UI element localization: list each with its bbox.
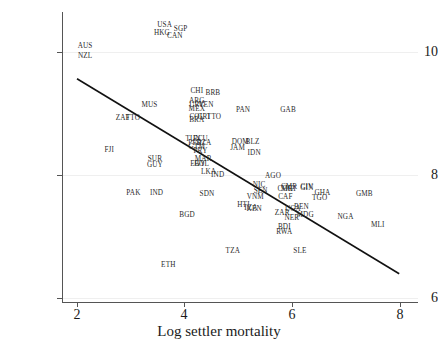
data-point-label: JAM <box>230 145 245 152</box>
y-tick-10 <box>57 52 62 53</box>
data-point-label: BRA <box>189 117 204 124</box>
data-point-label: MUS <box>141 102 157 109</box>
y-axis-line <box>62 12 63 303</box>
x-axis-title: Log settler mortality <box>0 323 438 340</box>
gridline-y10 <box>62 52 418 53</box>
data-point-label: RWA <box>276 229 292 236</box>
data-point-label: IND <box>211 172 224 179</box>
data-point-label: NZL <box>78 53 92 60</box>
data-point-label: GAB <box>280 108 296 115</box>
x-tick-label-2: 2 <box>62 308 92 322</box>
data-point-label: PAN <box>236 108 250 115</box>
x-tick-label-6: 6 <box>277 308 307 322</box>
y-tick-label-10: 10 <box>404 45 438 59</box>
data-point-label: BLZ <box>246 139 260 146</box>
data-point-label: NGA <box>337 214 353 221</box>
gridline-y8 <box>62 175 418 176</box>
data-point-label: AGO <box>265 173 281 180</box>
data-point-label: IDN <box>248 150 261 157</box>
data-point-label: GUY <box>147 162 163 169</box>
data-point-label: TGO <box>312 195 327 202</box>
data-point-label: BRB <box>205 91 220 98</box>
data-point-label: BOL <box>194 161 209 168</box>
y-tick-6 <box>57 298 62 299</box>
x-axis-line <box>62 302 418 303</box>
data-point-label: PAK <box>126 190 140 197</box>
data-point-label: AUS <box>78 43 93 50</box>
data-point-label: VNM <box>247 194 264 201</box>
data-point-label: SLE <box>293 248 306 255</box>
x-tick-label-4: 4 <box>169 308 199 322</box>
data-point-label: CAF <box>278 194 292 201</box>
data-point-label: CHI <box>190 89 203 96</box>
data-point-label: IND <box>150 190 163 197</box>
y-tick-label-6: 6 <box>404 291 438 305</box>
data-point-label: GMB <box>356 191 373 198</box>
data-point-label: TTO <box>126 116 140 123</box>
y-tick-8 <box>57 175 62 176</box>
data-point-label: MLI <box>371 222 385 229</box>
y-tick-label-8: 8 <box>404 168 438 182</box>
data-point-label: ETH <box>161 263 175 270</box>
data-point-label: BGD <box>179 212 195 219</box>
data-point-label: KEN <box>247 206 262 213</box>
data-point-label: SDN <box>200 191 215 198</box>
data-point-label: TZA <box>226 248 240 255</box>
data-point-label: CAN <box>167 33 183 40</box>
data-point-label: TTO <box>207 114 221 121</box>
gridline-y6 <box>62 298 418 299</box>
data-point-label: GIN <box>300 186 313 193</box>
data-point-label: FJI <box>104 148 114 155</box>
x-tick-label-8: 8 <box>385 308 415 322</box>
scatter-plot-figure: 10 8 6 2 4 6 8 Log settler mortality USA… <box>0 0 438 347</box>
data-point-label: NER <box>284 216 299 223</box>
